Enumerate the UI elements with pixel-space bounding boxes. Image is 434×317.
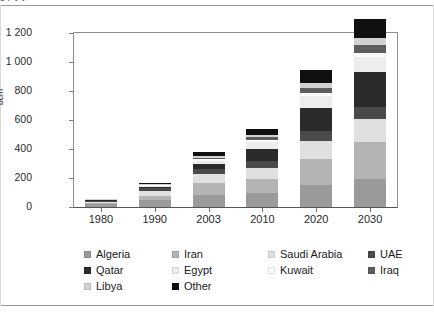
legend-item-iran[interactable]: Iran (172, 249, 268, 260)
bar-segment-qatar (300, 108, 332, 130)
legend-item-libya[interactable]: Libya (84, 281, 172, 292)
legend-swatch-icon (172, 267, 179, 274)
y-axis-tick-label: 800 (0, 84, 32, 96)
legend-item-label: Qatar (96, 265, 124, 276)
bar-segment-iran (246, 179, 278, 194)
bar-segment-algeria (139, 200, 171, 207)
legend-swatch-icon (172, 283, 179, 290)
legend-item-label: Saudi Arabia (280, 249, 342, 260)
legend-swatch-icon (84, 267, 91, 274)
y-axis-tick-label: 400 (0, 142, 32, 154)
legend-swatch-icon (268, 251, 275, 258)
y-axis-tick-label: 1 000 (0, 55, 32, 67)
caption-fragment: g p y y (0, 0, 434, 3)
x-axis-tick-label: 2020 (288, 213, 344, 225)
x-axis-tick-mark (101, 208, 102, 212)
legend-row: AlgeriaIranSaudi ArabiaUAE (84, 246, 428, 262)
bar-segment-qatar (354, 72, 386, 107)
y-axis-tick-label: 1 200 (0, 26, 32, 38)
bar-segment-egypt (354, 57, 386, 72)
legend-item-iraq[interactable]: Iraq (368, 265, 428, 276)
x-axis-tick-mark (370, 208, 371, 212)
bar-2020[interactable] (300, 70, 332, 207)
bar-segment-algeria (300, 185, 332, 207)
legend-row: QatarEgyptKuwaitIraq (84, 262, 428, 278)
bar-segment-iran (193, 183, 225, 195)
legend-item-label: Egypt (184, 265, 212, 276)
bar-2003[interactable] (193, 152, 225, 207)
legend-item-egypt[interactable]: Egypt (172, 265, 268, 276)
legend-row: LibyaOther (84, 278, 428, 294)
legend-item-label: Algeria (96, 249, 130, 260)
y-axis-tick-label: 200 (0, 171, 32, 183)
bar-segment-iran (300, 159, 332, 185)
bar-segment-saudi-arabia (246, 168, 278, 179)
bar-segment-uae (354, 107, 386, 119)
bar-segment-algeria (85, 204, 117, 207)
legend-item-label: Libya (96, 281, 122, 292)
legend-swatch-icon (268, 267, 275, 274)
x-axis-tick-label: 2030 (342, 213, 398, 225)
x-axis-tick-label: 1980 (73, 213, 129, 225)
bar-segment-saudi-arabia (300, 141, 332, 159)
x-axis-tick-label: 2003 (181, 213, 237, 225)
legend-item-uae[interactable]: UAE (368, 249, 428, 260)
frame-top-rule (0, 5, 434, 6)
y-axis-tick-label: 600 (0, 113, 32, 125)
bar-segment-algeria (193, 195, 225, 207)
y-axis-tick-label: 0 (0, 200, 32, 212)
bar-segment-saudi-arabia (354, 119, 386, 142)
legend-item-label: UAE (380, 249, 403, 260)
legend-item-kuwait[interactable]: Kuwait (268, 265, 368, 276)
bar-2030[interactable] (354, 19, 386, 207)
bar-segment-other (300, 70, 332, 83)
bar-segment-egypt (300, 96, 332, 108)
bar-segment-qatar (246, 149, 278, 161)
x-axis-tick-label: 1990 (127, 213, 183, 225)
legend-item-label: Iran (184, 249, 203, 260)
x-axis-tick-mark (262, 208, 263, 212)
bar-2010[interactable] (246, 129, 278, 207)
legend-swatch-icon (368, 267, 375, 274)
legend-item-label: Kuwait (280, 265, 313, 276)
bar-segment-algeria (354, 179, 386, 207)
legend-swatch-icon (172, 251, 179, 258)
bar-segment-saudi-arabia (193, 174, 225, 183)
legend-swatch-icon (84, 283, 91, 290)
bar-1990[interactable] (139, 183, 171, 207)
legend-item-other[interactable]: Other (172, 281, 268, 292)
x-axis-tick-mark (209, 208, 210, 212)
legend-item-algeria[interactable]: Algeria (84, 249, 172, 260)
bar-series-container (74, 33, 397, 207)
legend-item-label: Iraq (380, 265, 399, 276)
x-axis-tick-mark (316, 208, 317, 212)
frame-bottom-rule (0, 305, 434, 306)
bar-segment-algeria (246, 193, 278, 207)
legend-swatch-icon (84, 251, 91, 258)
bar-segment-other (354, 19, 386, 39)
chart-legend: AlgeriaIranSaudi ArabiaUAEQatarEgyptKuwa… (84, 246, 428, 294)
stacked-bar-chart-figure: g p y y bcm 02004006008001 0001 200 1980… (0, 0, 434, 317)
bar-segment-egypt (246, 142, 278, 149)
legend-item-qatar[interactable]: Qatar (84, 265, 172, 276)
bar-segment-iraq (354, 45, 386, 53)
bar-segment-uae (300, 131, 332, 141)
x-axis-tick-mark (155, 208, 156, 212)
legend-swatch-icon (368, 251, 375, 258)
legend-item-label: Other (184, 281, 212, 292)
bar-segment-iran (354, 142, 386, 178)
x-axis-tick-label: 2010 (234, 213, 290, 225)
legend-item-saudi-arabia[interactable]: Saudi Arabia (268, 249, 368, 260)
bar-1980[interactable] (85, 199, 117, 207)
frame-left-rule (0, 5, 1, 306)
